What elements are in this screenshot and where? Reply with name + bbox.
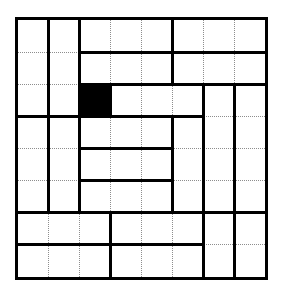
outer-border — [15, 17, 268, 280]
grid-dissection-canvas — [0, 0, 281, 293]
figure-root — [0, 0, 281, 293]
